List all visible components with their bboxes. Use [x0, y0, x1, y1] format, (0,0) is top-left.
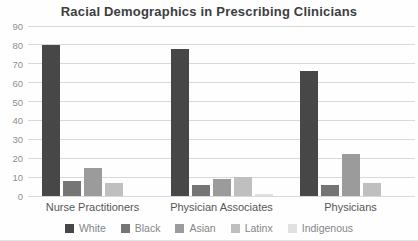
- legend-label-asian: Asian: [189, 222, 215, 234]
- x-label-physician-associates: Physician Associates: [157, 201, 286, 213]
- legend-swatch-white: [65, 224, 74, 233]
- legend: WhiteBlackAsianLatinxIndigenous: [0, 222, 418, 234]
- y-tick-70: 70: [12, 58, 23, 69]
- bar-asian-physician-associates: [213, 179, 231, 196]
- x-axis-labels: Nurse PractitionersPhysician AssociatesP…: [28, 201, 415, 213]
- y-tick-60: 60: [12, 77, 23, 88]
- legend-item-white: White: [65, 222, 106, 234]
- bar-black-nurse-practitioners: [63, 181, 81, 196]
- group-nurse-practitioners: [28, 26, 157, 196]
- chart-title: Racial Demographics in Prescribing Clini…: [0, 0, 418, 19]
- bar-white-nurse-practitioners: [42, 45, 60, 196]
- x-label-physicians: Physicians: [286, 201, 415, 213]
- legend-label-latinx: Latinx: [245, 222, 273, 234]
- chart-canvas: Racial Demographics in Prescribing Clini…: [0, 0, 418, 241]
- bar-black-physician-associates: [192, 185, 210, 196]
- legend-item-asian: Asian: [175, 222, 215, 234]
- y-tick-0: 0: [18, 191, 23, 202]
- bar-asian-physicians: [342, 154, 360, 196]
- legend-item-indigenous: Indigenous: [288, 222, 353, 234]
- bar-indigenous-physician-associates: [255, 194, 273, 196]
- bar-asian-nurse-practitioners: [84, 168, 102, 196]
- legend-label-white: White: [79, 222, 106, 234]
- legend-item-latinx: Latinx: [231, 222, 273, 234]
- bar-groups: [28, 26, 415, 196]
- bar-latinx-physicians: [363, 183, 381, 196]
- legend-swatch-black: [121, 224, 130, 233]
- y-tick-80: 80: [12, 39, 23, 50]
- legend-swatch-indigenous: [288, 224, 297, 233]
- y-tick-10: 10: [12, 172, 23, 183]
- y-tick-50: 50: [12, 96, 23, 107]
- y-tick-40: 40: [12, 115, 23, 126]
- y-tick-30: 30: [12, 134, 23, 145]
- group-physicians: [286, 26, 415, 196]
- plot-wrap: Nurse PractitionersPhysician AssociatesP…: [28, 26, 415, 213]
- bar-white-physicians: [300, 71, 318, 196]
- y-tick-20: 20: [12, 153, 23, 164]
- legend-label-black: Black: [135, 222, 161, 234]
- plot-area: [28, 26, 415, 196]
- y-tick-90: 90: [12, 21, 23, 32]
- bar-latinx-nurse-practitioners: [105, 183, 123, 196]
- legend-item-black: Black: [121, 222, 161, 234]
- x-label-nurse-practitioners: Nurse Practitioners: [28, 201, 157, 213]
- bar-white-physician-associates: [171, 49, 189, 196]
- chart-body: 0102030405060708090 Nurse PractitionersP…: [0, 26, 418, 213]
- bar-black-physicians: [321, 185, 339, 196]
- bar-latinx-physician-associates: [234, 177, 252, 196]
- legend-swatch-asian: [175, 224, 184, 233]
- legend-swatch-latinx: [231, 224, 240, 233]
- y-axis: 0102030405060708090: [0, 26, 28, 196]
- group-physician-associates: [157, 26, 286, 196]
- legend-label-indigenous: Indigenous: [302, 222, 353, 234]
